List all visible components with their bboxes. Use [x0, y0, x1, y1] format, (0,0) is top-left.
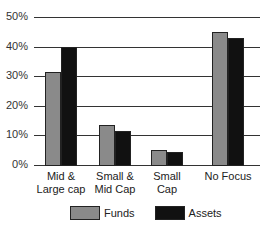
y-tick-label: 30%: [0, 69, 28, 81]
gridline: [34, 17, 260, 18]
y-tick-label: 20%: [0, 99, 28, 111]
legend: Funds Assets: [70, 206, 242, 220]
bar-funds: [99, 125, 115, 166]
x-category-label: Mid &Large cap: [31, 170, 91, 196]
bar-assets: [115, 131, 131, 166]
y-tick-label: 0%: [0, 158, 28, 170]
legend-item-assets: Assets: [155, 206, 222, 220]
bar-funds: [212, 32, 228, 166]
bar-assets: [61, 47, 77, 166]
bar-funds: [45, 72, 61, 166]
funds-swatch: [70, 206, 100, 220]
bar-assets: [228, 38, 244, 166]
y-tick-label: 40%: [0, 40, 28, 52]
x-category-label: No Focus: [198, 170, 258, 183]
y-tick-label: 10%: [0, 128, 28, 140]
legend-label-assets: Assets: [189, 207, 222, 219]
x-category-label: SmallCap: [137, 170, 197, 196]
y-tick-label: 50%: [0, 10, 28, 22]
legend-label-funds: Funds: [104, 207, 135, 219]
assets-swatch: [155, 206, 185, 220]
bar-assets: [167, 152, 183, 166]
x-category-label: Small &Mid Cap: [85, 170, 145, 196]
bar-funds: [151, 150, 167, 166]
legend-item-funds: Funds: [70, 206, 135, 220]
